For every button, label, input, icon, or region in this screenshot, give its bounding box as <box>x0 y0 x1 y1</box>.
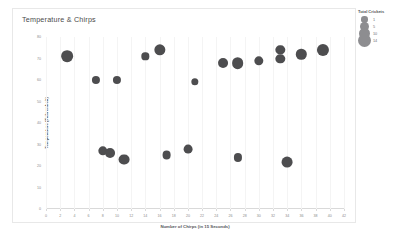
y-tick-label: 0 <box>39 207 41 211</box>
x-tick-label: 12 <box>129 214 133 218</box>
data-point[interactable] <box>61 50 73 62</box>
x-tick-mark <box>273 209 274 211</box>
data-point[interactable] <box>119 154 130 165</box>
data-point[interactable] <box>232 57 244 69</box>
x-gridline <box>287 37 288 209</box>
data-point[interactable] <box>282 156 293 167</box>
legend-label: 1 <box>373 18 375 22</box>
x-gridline <box>160 37 161 209</box>
data-point[interactable] <box>218 58 228 68</box>
x-tick-label: 22 <box>200 214 204 218</box>
x-gridline <box>131 37 132 209</box>
x-tick-mark <box>259 209 260 211</box>
x-gridline <box>344 37 345 209</box>
x-axis-title: Number of Chirps (in 15 Seconds) <box>160 224 229 229</box>
y-tick-label: 20 <box>37 164 41 168</box>
x-gridline <box>216 37 217 209</box>
x-gridline <box>46 37 47 209</box>
x-tick-label: 32 <box>271 214 275 218</box>
y-tick-label: 80 <box>37 35 41 39</box>
data-point[interactable] <box>105 148 115 158</box>
x-tick-label: 38 <box>314 214 318 218</box>
x-gridline <box>117 37 118 209</box>
x-tick-mark <box>131 209 132 211</box>
x-axis-line <box>46 208 344 209</box>
x-tick-mark <box>117 209 118 211</box>
chart-title: Temperature & Chirps <box>22 15 96 24</box>
legend-label: 14 <box>373 39 377 43</box>
data-point[interactable] <box>183 144 192 153</box>
x-tick-mark <box>89 209 90 211</box>
x-gridline <box>202 37 203 209</box>
x-tick-mark <box>287 209 288 211</box>
x-tick-label: 26 <box>228 214 232 218</box>
y-tick-label: 10 <box>37 186 41 190</box>
x-gridline <box>60 37 61 209</box>
chart-canvas: Temperature & Chirps Number of Chirps (i… <box>0 0 420 243</box>
x-tick-mark <box>316 209 317 211</box>
x-tick-label: 6 <box>88 214 90 218</box>
chart-card: Temperature & Chirps Number of Chirps (i… <box>12 8 356 223</box>
legend-swatch <box>358 34 371 47</box>
x-tick-mark <box>60 209 61 211</box>
x-gridline <box>103 37 104 209</box>
x-gridline <box>89 37 90 209</box>
plot-area: Number of Chirps (in 15 Seconds) Tempera… <box>46 37 344 209</box>
plot-background <box>46 37 344 209</box>
x-tick-mark <box>188 209 189 211</box>
x-tick-mark <box>174 209 175 211</box>
x-tick-mark <box>145 209 146 211</box>
x-tick-label: 0 <box>45 214 47 218</box>
x-tick-label: 8 <box>102 214 104 218</box>
x-tick-label: 28 <box>243 214 247 218</box>
data-point[interactable] <box>162 151 171 160</box>
x-gridline <box>245 37 246 209</box>
y-tick-label: 50 <box>37 100 41 104</box>
x-tick-label: 30 <box>257 214 261 218</box>
legend-entry[interactable]: 14 <box>358 37 414 44</box>
x-tick-label: 14 <box>143 214 147 218</box>
x-gridline <box>301 37 302 209</box>
x-tick-label: 18 <box>172 214 176 218</box>
y-tick-label: 30 <box>37 143 41 147</box>
x-tick-label: 16 <box>158 214 162 218</box>
x-gridline <box>188 37 189 209</box>
x-tick-mark <box>216 209 217 211</box>
y-tick-label: 40 <box>37 121 41 125</box>
x-tick-label: 4 <box>73 214 75 218</box>
legend-title: Total Crickets <box>358 9 414 14</box>
x-tick-mark <box>202 209 203 211</box>
x-tick-mark <box>103 209 104 211</box>
x-gridline <box>316 37 317 209</box>
x-tick-mark <box>330 209 331 211</box>
x-tick-mark <box>344 209 345 211</box>
legend: Total Crickets 151014 <box>358 9 414 44</box>
x-tick-mark <box>160 209 161 211</box>
x-gridline <box>145 37 146 209</box>
x-gridline <box>174 37 175 209</box>
y-tick-label: 60 <box>37 78 41 82</box>
legend-label: 10 <box>373 32 377 36</box>
x-gridline <box>330 37 331 209</box>
x-tick-mark <box>245 209 246 211</box>
x-tick-mark <box>230 209 231 211</box>
legend-label: 5 <box>373 25 375 29</box>
legend-swatch-box <box>358 34 371 47</box>
x-gridline <box>74 37 75 209</box>
x-tick-label: 20 <box>186 214 190 218</box>
legend-entries: 151014 <box>358 16 414 44</box>
x-tick-label: 40 <box>328 214 332 218</box>
x-gridline <box>273 37 274 209</box>
y-tick-label: 70 <box>37 57 41 61</box>
x-tick-mark <box>46 209 47 211</box>
x-tick-label: 2 <box>59 214 61 218</box>
x-tick-mark <box>74 209 75 211</box>
x-tick-label: 10 <box>115 214 119 218</box>
x-tick-label: 24 <box>214 214 218 218</box>
x-tick-label: 42 <box>342 214 346 218</box>
x-tick-label: 34 <box>285 214 289 218</box>
x-tick-mark <box>301 209 302 211</box>
x-tick-label: 36 <box>299 214 303 218</box>
